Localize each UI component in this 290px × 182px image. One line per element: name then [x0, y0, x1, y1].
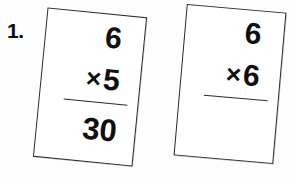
card-1-operand-top: 6 [104, 22, 124, 53]
multiplication-sign-icon: × [225, 61, 242, 88]
problem-number-label: 1. [7, 19, 24, 43]
flash-card-1[interactable]: 6 × 5 30 [33, 7, 147, 166]
card-2-operand-top: 6 [243, 18, 262, 49]
card-2-operand-bottom: 6 [242, 60, 261, 91]
card-2-operation-row: × 6 [225, 59, 261, 92]
flash-card-1-content: 6 × 5 30 [34, 9, 146, 166]
worksheet-page: 1. 6 × 5 30 6 × 6 [0, 0, 290, 182]
card-1-operand-bottom: 5 [102, 64, 122, 95]
multiplication-sign-icon: × [85, 65, 103, 92]
card-1-answer[interactable]: 30 [81, 113, 118, 147]
card-1-answer-rule [64, 98, 128, 105]
flash-card-2-content: 6 × 6 [175, 5, 286, 163]
card-1-operation-row: × 5 [85, 63, 122, 96]
card-2-answer-rule [204, 95, 268, 102]
flash-card-2[interactable]: 6 × 6 [174, 4, 287, 164]
